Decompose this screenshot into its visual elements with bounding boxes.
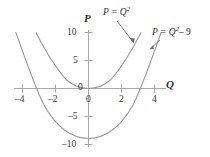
y-tick-label-5: 5 xyxy=(73,56,78,66)
curve-annotation-1-base: P = Q xyxy=(103,7,127,17)
y-tick-label-neg10: –10 xyxy=(62,140,76,150)
leader-arrow-q-squared xyxy=(117,21,135,44)
x-tick-label-neg2: –2 xyxy=(48,95,58,105)
x-tick-label-origin: 0 xyxy=(86,95,91,105)
y-axis-label: P xyxy=(84,13,91,24)
y-tick-label-origin: 0 xyxy=(78,83,83,93)
leader-arrow-q-squared-minus-9 xyxy=(150,40,160,49)
curve-annotation-1-exponent: 2 xyxy=(127,5,130,12)
curve-annotation-q-squared-minus-9: P = Q2– 9 xyxy=(152,28,191,38)
x-axis-label: Q xyxy=(166,79,174,90)
curve-annotation-2-tail: – 9 xyxy=(179,27,191,37)
curve-annotation-q-squared: P = Q2 xyxy=(103,8,130,18)
parabola-figure: P Q 10 5 0 –5 –10 –4 –2 0 2 4 P = Q2 P =… xyxy=(0,0,210,157)
y-tick-label-10: 10 xyxy=(67,28,77,38)
x-tick-label-4: 4 xyxy=(152,95,157,105)
x-tick-label-2: 2 xyxy=(119,95,124,105)
plot-canvas xyxy=(0,0,210,157)
x-tick-label-neg4: –4 xyxy=(15,95,25,105)
y-tick-label-neg5: –5 xyxy=(68,112,78,122)
curve-annotation-2-base: P = Q xyxy=(152,27,176,37)
